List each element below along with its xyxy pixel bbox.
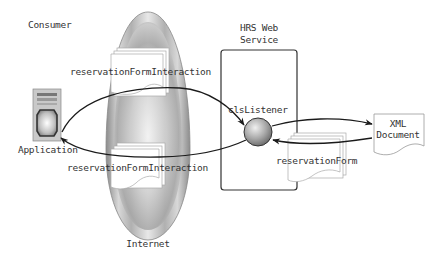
xml-label-line2: Document (370, 129, 426, 140)
application-server-icon (33, 89, 61, 141)
application-label: Application (18, 144, 78, 155)
internet-oval (106, 12, 190, 240)
listener-label: clsListener (228, 104, 288, 115)
cls-listener-sphere (244, 118, 272, 146)
reservation-form-label: reservationForm (276, 155, 357, 166)
hrs-label-line2: Service (229, 34, 289, 45)
consumer-label: Consumer (28, 19, 71, 30)
diagram-canvas: Consumer Application reservationFormInte… (0, 0, 442, 259)
arrow-listener-to-xml (272, 119, 372, 126)
interaction-label-top: reservationFormInteraction (70, 66, 211, 77)
internet-label: Internet (118, 238, 178, 249)
xml-label-line1: XML (370, 118, 426, 129)
hrs-label-line1: HRS Web (229, 22, 289, 33)
interaction-label-bottom: reservationFormInteraction (67, 162, 208, 173)
